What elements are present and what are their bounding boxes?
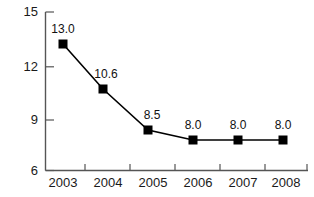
x-tick-label-2003: 2003 bbox=[40, 176, 86, 189]
line-chart: 15 12 9 6 2003 2004 2005 2006 2007 2008 … bbox=[0, 0, 314, 197]
x-tick-label-2008: 2008 bbox=[263, 176, 309, 189]
x-tick-label-2007: 2007 bbox=[220, 176, 266, 189]
data-point-marker bbox=[59, 40, 68, 49]
data-point-label-2008: 8.0 bbox=[257, 119, 309, 131]
x-tick-label-2006: 2006 bbox=[175, 176, 221, 189]
x-tick-label-2005: 2005 bbox=[130, 176, 176, 189]
y-tick-label-15: 15 bbox=[6, 5, 38, 18]
data-point-marker bbox=[279, 136, 288, 145]
y-tick-label-6: 6 bbox=[6, 164, 38, 177]
data-point-marker bbox=[144, 126, 153, 135]
y-tick-label-9: 9 bbox=[6, 113, 38, 126]
data-point-marker bbox=[99, 85, 108, 94]
x-tick-label-2004: 2004 bbox=[85, 176, 131, 189]
data-point-marker bbox=[234, 136, 243, 145]
data-point-label-2004: 10.6 bbox=[80, 68, 132, 80]
x-axis-ticks bbox=[85, 164, 307, 171]
data-point-marker bbox=[189, 136, 198, 145]
y-tick-label-12: 12 bbox=[6, 60, 38, 73]
data-point-label-2003: 13.0 bbox=[37, 23, 89, 35]
